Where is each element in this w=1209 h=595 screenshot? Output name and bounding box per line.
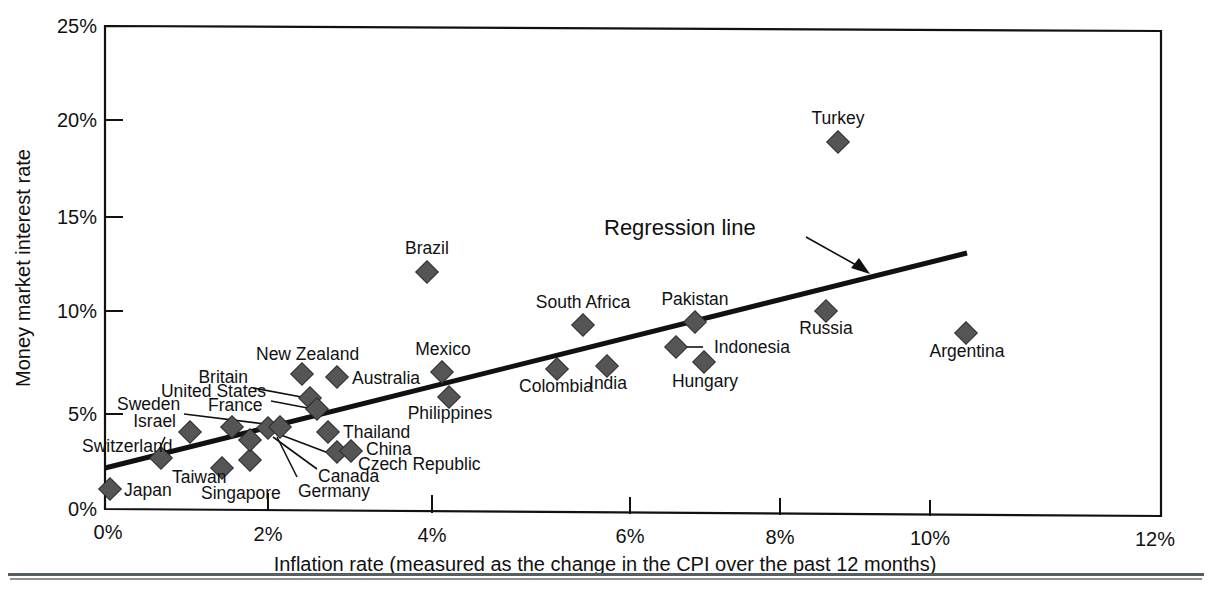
y-tick-label: 0%	[68, 498, 97, 520]
x-tick-label: 4%	[418, 524, 447, 546]
label-argentina: Argentina	[930, 341, 1005, 361]
plot-frame	[105, 26, 1161, 516]
x-axis-title: Inflation rate (measured as the change i…	[274, 553, 937, 575]
label-philippines: Philippines	[408, 403, 493, 423]
data-point-labels: Japan Switzerland Israel Taiwan Singapor…	[82, 108, 1005, 503]
data-point-south-africa[interactable]	[572, 314, 595, 337]
regression-arrow-icon	[806, 237, 870, 274]
scatter-plot-figure: 25% 20% 15% 10% 5% 0% 0% 2% 4% 6% 8% 10%…	[0, 0, 1209, 595]
y-tick-label: 20%	[57, 109, 97, 131]
y-axis-ticks	[105, 120, 123, 414]
label-japan: Japan	[124, 480, 172, 500]
y-tick-label: 15%	[57, 206, 97, 228]
data-points	[99, 131, 978, 501]
data-point-pakistan[interactable]	[684, 311, 707, 334]
x-tick-label: 10%	[910, 527, 950, 549]
data-point-hungary[interactable]	[693, 351, 716, 374]
y-tick-label: 25%	[57, 15, 97, 37]
label-brazil: Brazil	[405, 238, 449, 258]
label-turkey: Turkey	[812, 108, 865, 128]
footer-divider-top	[8, 573, 1204, 576]
label-mexico: Mexico	[415, 339, 470, 359]
footer-divider-bottom	[10, 578, 1202, 580]
label-india: India	[589, 373, 627, 393]
label-singapore: Singapore	[201, 483, 281, 503]
label-united-states: United States	[161, 381, 266, 401]
y-tick-label: 5%	[68, 403, 97, 425]
data-point-new-zealand[interactable]	[291, 363, 314, 386]
label-indonesia: Indonesia	[714, 337, 790, 357]
x-tick-label: 6%	[616, 525, 645, 547]
x-tick-label: 2%	[254, 523, 283, 545]
data-point-brazil[interactable]	[416, 261, 439, 284]
data-point-thailand[interactable]	[317, 421, 340, 444]
label-israel: Israel	[133, 411, 176, 431]
chart-canvas: 25% 20% 15% 10% 5% 0% 0% 2% 4% 6% 8% 10%…	[0, 0, 1209, 595]
label-south-africa: South Africa	[536, 292, 631, 312]
x-tick-label: 0%	[94, 521, 123, 543]
label-australia: Australia	[352, 368, 420, 388]
data-point-japan[interactable]	[99, 478, 122, 501]
label-switzerland: Switzerland	[82, 436, 172, 456]
data-point-singapore[interactable]	[239, 449, 262, 472]
x-tick-label: 8%	[766, 526, 795, 548]
label-new-zealand: New Zealand	[256, 344, 359, 364]
regression-line-annotation: Regression line	[604, 215, 756, 240]
x-tick-label: 12%	[1135, 528, 1175, 550]
label-russia: Russia	[799, 318, 853, 338]
label-colombia: Colombia	[519, 376, 593, 396]
y-tick-label: 10%	[57, 300, 97, 322]
label-pakistan: Pakistan	[661, 289, 728, 309]
data-point-turkey[interactable]	[827, 131, 850, 154]
x-axis-tick-labels: 0% 2% 4% 6% 8% 10% 12%	[94, 521, 1176, 550]
y-axis-title: Money market interest rate	[12, 149, 34, 387]
data-point-australia[interactable]	[326, 366, 349, 389]
label-hungary: Hungary	[672, 371, 738, 391]
data-point-indonesia[interactable]	[665, 336, 688, 359]
data-point-israel[interactable]	[179, 421, 202, 444]
label-china: China	[366, 439, 412, 459]
